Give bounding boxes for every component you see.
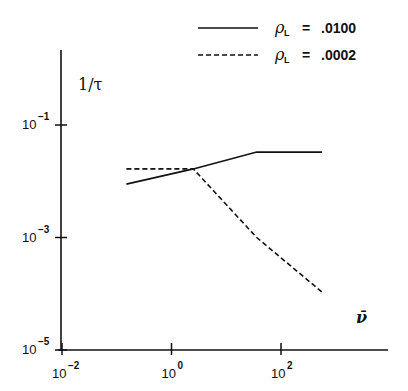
legend-equals: = xyxy=(302,20,310,36)
x-tick-exponent: −2 xyxy=(68,360,80,371)
y-tick-exponent: −1 xyxy=(38,111,50,122)
series-lines xyxy=(126,152,322,292)
y-tick-exponent: −5 xyxy=(38,336,50,347)
chart: 10−2100102 10−110−310−5 1/τ ν̄ ρL=.0100ρ… xyxy=(0,0,408,391)
legend: ρL=.0100ρL=.0002 xyxy=(198,18,356,65)
y-tick-label: 10 xyxy=(22,342,36,357)
legend-equals: = xyxy=(302,47,310,63)
x-tick-exponent: 0 xyxy=(178,360,184,371)
x-tick-exponent: 2 xyxy=(287,360,293,371)
series-line-solid xyxy=(126,152,322,184)
y-tick-label: 10 xyxy=(22,230,36,245)
x-ticks: 10−2100102 xyxy=(52,343,293,381)
x-tick-label: 10 xyxy=(162,366,176,381)
y-tick-exponent: −3 xyxy=(38,224,50,235)
legend-value: .0002 xyxy=(321,47,356,63)
x-tick-label: 10 xyxy=(52,366,66,381)
legend-subscript: L xyxy=(284,28,290,38)
legend-value: .0100 xyxy=(321,20,356,36)
legend-subscript: L xyxy=(284,55,290,65)
x-tick-label: 10 xyxy=(271,366,285,381)
series-line-dashed xyxy=(126,169,322,292)
y-tick-label: 10 xyxy=(22,117,36,132)
y-axis-title: 1/τ xyxy=(78,75,103,94)
x-axis-title: ν̄ xyxy=(356,308,367,327)
